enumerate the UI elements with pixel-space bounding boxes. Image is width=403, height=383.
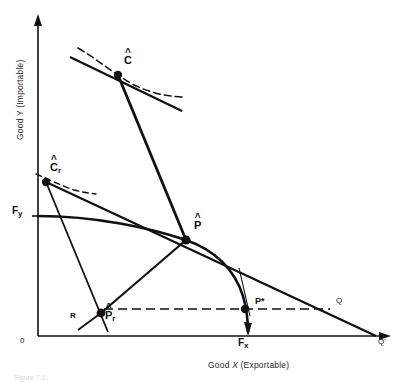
marker-label-fx: Fx (238, 338, 249, 350)
point-label-p-star: P* (255, 297, 265, 306)
x-axis-title: Good X (Exportable) (208, 361, 289, 370)
x-axis-title-prefix: Good (208, 360, 232, 370)
point-sub-pr: r (112, 314, 115, 323)
hat-accent-p: ^ (195, 213, 201, 223)
hat-accent-cr: ^ (51, 155, 57, 165)
point-label-p-hat: ^P (194, 220, 201, 231)
hat-accent-c: ^ (125, 48, 131, 58)
point-label-c-hat: ^C (124, 55, 132, 66)
marker-label-r: R (70, 312, 76, 320)
point-star-glyph: * (261, 296, 265, 306)
indifference-curve-c-hat (78, 48, 186, 97)
point-marker-p-star[interactable] (241, 305, 249, 313)
diagram-canvas (0, 0, 403, 383)
pr-hat-glyph: ^P (105, 310, 112, 321)
y-axis-arrowhead (34, 14, 42, 26)
line-prhat-to-phat (101, 240, 186, 313)
marker-label-q: Q (336, 297, 342, 305)
trade-line-chat-phat (118, 75, 186, 240)
marker-label-fy: Fy (12, 206, 23, 218)
point-label-pr-hat: ^P r (105, 310, 115, 323)
origin-label: 0 (20, 337, 24, 345)
p-hat-glyph: ^P (194, 220, 201, 231)
fy-sub: y (18, 209, 22, 218)
figure-caption: Figure 7.1 (14, 374, 46, 381)
point-label-cr-hat: ^C r (50, 162, 61, 175)
point-marker-p-hat[interactable] (181, 235, 190, 244)
c-hat-glyph: ^C (124, 55, 132, 66)
ppf-arrow-tip (244, 322, 252, 336)
x-axis-title-suffix: (Exportable) (238, 360, 289, 370)
point-marker-c-hat[interactable] (114, 71, 122, 79)
fx-sub: x (244, 341, 248, 350)
point-marker-cr-hat[interactable] (42, 178, 50, 186)
figure-container: Good Y (Importable) Good X (Exportable) … (0, 0, 403, 383)
axes-group (34, 14, 391, 340)
point-sub-cr: r (58, 166, 61, 175)
y-axis-title: Good Y (Importable) (16, 60, 25, 141)
marker-label-q-prime: Q' (378, 338, 386, 346)
cr-hat-glyph: ^C (50, 162, 58, 173)
hat-accent-pr: ^ (106, 303, 112, 313)
world-price-line (46, 182, 376, 336)
